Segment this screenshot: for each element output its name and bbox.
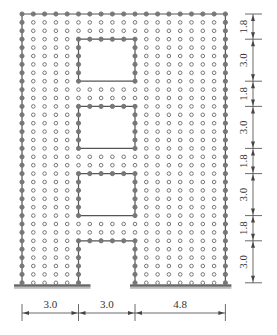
interior-node xyxy=(212,247,216,251)
boundary-node xyxy=(223,46,227,50)
boundary-node xyxy=(76,272,80,276)
boundary-node xyxy=(212,12,216,16)
interior-node xyxy=(77,222,81,226)
interior-node xyxy=(190,113,194,117)
interior-node xyxy=(32,147,36,151)
interior-node xyxy=(167,231,171,235)
interior-node xyxy=(122,96,126,100)
boundary-node xyxy=(133,188,137,192)
boundary-node xyxy=(133,197,137,201)
boundary-node xyxy=(133,104,137,108)
boundary-node xyxy=(99,37,103,41)
interior-node xyxy=(156,71,160,75)
interior-node xyxy=(178,256,182,260)
interior-node xyxy=(43,247,47,251)
boundary-node xyxy=(133,54,137,58)
interior-node xyxy=(167,273,171,277)
dim-arrow xyxy=(251,15,255,21)
boundary-node xyxy=(99,12,103,16)
interior-node xyxy=(167,247,171,251)
interior-node xyxy=(65,222,69,226)
interior-node xyxy=(133,222,137,226)
interior-node xyxy=(167,264,171,268)
interior-node xyxy=(156,214,160,218)
interior-node xyxy=(212,105,216,109)
boundary-node xyxy=(20,180,24,184)
boundary-node xyxy=(65,12,69,16)
interior-node xyxy=(212,29,216,33)
interior-node xyxy=(167,197,171,201)
interior-node xyxy=(99,96,103,100)
interior-node xyxy=(178,54,182,58)
boundary-node xyxy=(20,79,24,83)
interior-node xyxy=(201,138,205,142)
boundary-node xyxy=(76,46,80,50)
boundary-node xyxy=(133,79,137,83)
boundary-node xyxy=(223,121,227,125)
boundary-node xyxy=(20,230,24,234)
wall-diagram-canvas: 3.03.04.81.83.01.83.01.83.01.83.0 xyxy=(0,0,277,335)
interior-node xyxy=(156,63,160,67)
interior-node xyxy=(122,88,126,92)
interior-node xyxy=(212,256,216,260)
boundary-node xyxy=(122,239,126,243)
boundary-node xyxy=(20,71,24,75)
interior-node xyxy=(190,79,194,83)
interior-node xyxy=(122,231,126,235)
boundary-node xyxy=(99,104,103,108)
interior-node xyxy=(145,130,149,134)
interior-node xyxy=(65,239,69,243)
interior-node xyxy=(167,54,171,58)
interior-node xyxy=(156,113,160,117)
interior-node xyxy=(54,88,58,92)
interior-node xyxy=(145,205,149,209)
interior-node xyxy=(54,189,58,193)
interior-node xyxy=(167,88,171,92)
boundary-node xyxy=(223,247,227,251)
interior-node xyxy=(190,46,194,50)
interior-node xyxy=(54,96,58,100)
interior-node xyxy=(54,54,58,58)
interior-node xyxy=(201,180,205,184)
interior-node xyxy=(201,197,205,201)
boundary-node xyxy=(133,62,137,66)
boundary-node xyxy=(201,12,205,16)
interior-node xyxy=(190,138,194,142)
interior-node xyxy=(145,37,149,41)
interior-node xyxy=(201,71,205,75)
interior-node xyxy=(65,29,69,33)
boundary-node xyxy=(133,46,137,50)
interior-node xyxy=(167,63,171,67)
boundary-node xyxy=(133,272,137,276)
boundary-node xyxy=(133,247,137,251)
interior-node xyxy=(212,37,216,41)
interior-node xyxy=(178,205,182,209)
interior-node xyxy=(145,54,149,58)
boundary-node xyxy=(20,12,24,16)
interior-node xyxy=(65,96,69,100)
interior-node xyxy=(43,273,47,277)
interior-node xyxy=(212,113,216,117)
interior-node xyxy=(167,121,171,125)
dim-arrow xyxy=(251,209,255,215)
interior-node xyxy=(145,214,149,218)
interior-node xyxy=(65,264,69,268)
interior-node xyxy=(65,71,69,75)
interior-node xyxy=(32,79,36,83)
boundary-node xyxy=(20,247,24,251)
interior-node xyxy=(178,37,182,41)
interior-node xyxy=(65,247,69,251)
boundary-node xyxy=(76,130,80,134)
interior-node xyxy=(145,281,149,285)
dim-arrow xyxy=(251,149,255,155)
interior-node xyxy=(32,163,36,167)
boundary-node xyxy=(223,180,227,184)
interior-node xyxy=(43,21,47,25)
interior-node xyxy=(201,214,205,218)
interior-node xyxy=(201,130,205,134)
boundary-node xyxy=(223,104,227,108)
interior-node xyxy=(201,247,205,251)
interior-node xyxy=(54,63,58,67)
boundary-node xyxy=(122,37,126,41)
boundary-node xyxy=(223,214,227,218)
